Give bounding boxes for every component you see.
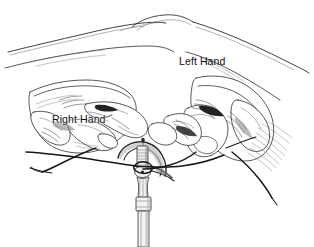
instrument-ferrule-shadow — [147, 198, 150, 211]
instrument-shaft-shadow — [146, 212, 149, 247]
label-right-hand: Right Hand — [52, 114, 106, 125]
instrument-barrel-shadow — [145, 147, 148, 167]
illustration-figure: Left Hand Right Hand — [0, 0, 314, 247]
label-left-hand: Left Hand — [179, 56, 225, 67]
illustration-canvas — [0, 0, 314, 247]
